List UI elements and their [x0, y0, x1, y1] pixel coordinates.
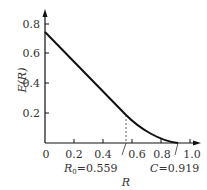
- y-axis-label: E(R): [16, 68, 29, 94]
- x-tick-label: 1.0: [183, 148, 201, 161]
- x-tick-label: 0: [43, 148, 50, 161]
- y-axis-arrow-icon: [43, 9, 48, 17]
- x-tick-label: 0.4: [94, 148, 112, 161]
- c-annotation: C=0.919: [150, 162, 199, 175]
- x-tick-label: 0.6: [128, 148, 146, 161]
- x-tick-label: 0.2: [65, 148, 83, 161]
- r0-annotation: R0=0.559: [63, 162, 117, 176]
- y-tick-label: 0.6: [23, 47, 41, 60]
- c-leader-line: [175, 143, 178, 155]
- y-tick-label: 0.8: [23, 18, 41, 31]
- x-axis-arrow-icon: [193, 141, 201, 146]
- y-tick-label: 0.2: [23, 107, 41, 120]
- r0-leader-line: [122, 143, 126, 155]
- x-axis-label: R: [121, 176, 130, 189]
- chart: 0.2 0.4 0.6 0.8 0 0.2 0.4 0.6 0.8 1.0 E(…: [0, 0, 207, 190]
- e-r-curve: [45, 32, 178, 143]
- x-tick-label: 0.8: [153, 148, 171, 161]
